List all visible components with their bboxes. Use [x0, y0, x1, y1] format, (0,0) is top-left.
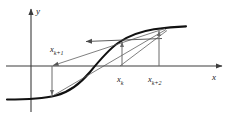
guide-line-upper — [53, 29, 165, 66]
y-axis-label: y — [35, 6, 40, 16]
iteration-diagram: y x xk+1 xk xk+2 — [0, 0, 235, 120]
label-x-k: xk — [116, 74, 124, 86]
axes-group — [6, 9, 222, 112]
labels-group: y x xk+1 xk xk+2 — [35, 6, 216, 86]
label-x-k-plus-2: xk+2 — [147, 74, 162, 86]
label-x-k-plus-1: xk+1 — [49, 44, 64, 56]
label-x-k-plus-1-sub: k+1 — [54, 50, 64, 56]
label-x-k-sub: k — [121, 80, 124, 86]
x-axis-label: x — [211, 72, 216, 82]
figure-container: y x xk+1 xk xk+2 — [0, 0, 235, 120]
label-x-k-plus-2-sub: k+2 — [152, 80, 162, 86]
guide-line-lower — [50, 30, 166, 98]
